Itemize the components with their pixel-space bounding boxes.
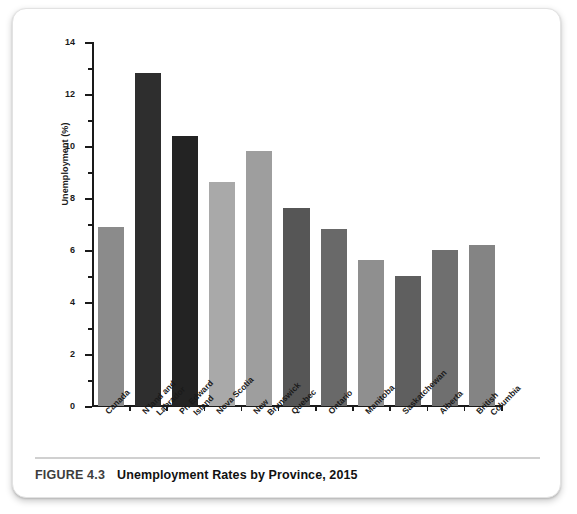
y-tick-major: 14 xyxy=(85,42,92,44)
y-tick-major: 2 xyxy=(85,354,92,356)
y-tick-major: 0 xyxy=(85,406,92,408)
caption-figure-number: FIGURE 4.3 xyxy=(35,468,105,482)
figure-caption: FIGURE 4.3 Unemployment Rates by Provinc… xyxy=(35,468,358,482)
y-axis-title: Unemployment (%) xyxy=(60,94,70,234)
y-tick-major: 8 xyxy=(85,198,92,200)
bar-n-land-and-labrador[interactable] xyxy=(135,73,161,406)
y-tick-label: 12 xyxy=(65,89,75,99)
bar-pr-edward-island[interactable] xyxy=(172,136,198,406)
bar-saskatchewan[interactable] xyxy=(395,276,421,406)
y-tick-label: 10 xyxy=(65,141,75,151)
y-tick-label: 0 xyxy=(70,401,75,411)
y-tick-major: 12 xyxy=(85,94,92,96)
figure-card: Unemployment (%) 02468101214 CanadaN'lan… xyxy=(12,8,561,498)
chart-plot-region: Unemployment (%) 02468101214 CanadaN'lan… xyxy=(13,9,562,449)
y-tick-label: 4 xyxy=(70,297,75,307)
bar-manitoba[interactable] xyxy=(358,260,384,406)
caption-title: Unemployment Rates by Province, 2015 xyxy=(117,468,358,482)
y-tick-label: 14 xyxy=(65,37,75,47)
caption-divider xyxy=(35,457,540,459)
bar-nova-scotia[interactable] xyxy=(209,182,235,406)
y-tick-major: 6 xyxy=(85,250,92,252)
bar-british-columbia[interactable] xyxy=(469,245,495,406)
chart-axes: 02468101214 xyxy=(92,34,512,414)
y-tick-label: 2 xyxy=(70,349,75,359)
bar-ontario[interactable] xyxy=(321,229,347,406)
y-tick-major: 10 xyxy=(85,146,92,148)
y-tick-major: 4 xyxy=(85,302,92,304)
bar-canada[interactable] xyxy=(98,227,124,406)
y-tick-label: 8 xyxy=(70,193,75,203)
y-tick-label: 6 xyxy=(70,245,75,255)
bars-layer xyxy=(92,34,501,406)
bar-new-brunswick[interactable] xyxy=(246,151,272,406)
